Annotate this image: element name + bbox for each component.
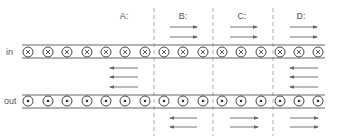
arrow-head bbox=[109, 75, 114, 79]
arrow-head bbox=[314, 125, 319, 129]
arrow-right-icon bbox=[290, 35, 318, 39]
arrow-head bbox=[193, 25, 198, 29]
field-arrows bbox=[109, 25, 319, 129]
arrow-head bbox=[109, 66, 114, 70]
dot-mark bbox=[27, 100, 30, 103]
dot-mark bbox=[66, 100, 69, 103]
dot-conductor-icon bbox=[217, 96, 227, 106]
cross-conductor-icon bbox=[43, 47, 53, 57]
cross-conductor-icon bbox=[275, 47, 285, 57]
cross-conductor-icon bbox=[120, 47, 130, 57]
arrow-right-icon bbox=[290, 116, 319, 120]
arrow-right-icon bbox=[230, 125, 259, 129]
arrow-left-icon bbox=[169, 116, 197, 120]
dot-mark bbox=[279, 100, 282, 103]
cross-conductor-icon bbox=[236, 47, 246, 57]
conductor-row-in bbox=[23, 47, 323, 57]
dot-conductor-icon bbox=[62, 96, 72, 106]
arrow-head bbox=[313, 35, 318, 39]
dot-mark bbox=[105, 100, 108, 103]
arrow-head bbox=[109, 85, 114, 89]
dot-mark bbox=[317, 100, 320, 103]
arrow-head bbox=[253, 25, 258, 29]
conductor-field-diagram: inoutA:B:C:D: bbox=[0, 0, 343, 138]
arrow-right-icon bbox=[170, 25, 198, 29]
dot-conductor-icon bbox=[82, 96, 92, 106]
dot-conductor-icon bbox=[120, 96, 130, 106]
cross-conductor-icon bbox=[62, 47, 72, 57]
arrow-head bbox=[314, 116, 319, 120]
dot-conductor-icon bbox=[256, 96, 266, 106]
dot-conductor-icon bbox=[178, 96, 188, 106]
cross-conductor-icon bbox=[140, 47, 150, 57]
arrow-left-icon bbox=[289, 75, 318, 79]
dot-conductor-icon bbox=[23, 96, 33, 106]
arrow-left-icon bbox=[169, 125, 197, 129]
row-label-out: out bbox=[4, 96, 17, 106]
arrow-head bbox=[289, 85, 294, 89]
cross-conductor-icon bbox=[82, 47, 92, 57]
dot-conductor-icon bbox=[198, 96, 208, 106]
arrow-head bbox=[313, 25, 318, 29]
dot-mark bbox=[86, 100, 89, 103]
arrow-left-icon bbox=[109, 85, 138, 89]
arrow-head bbox=[253, 35, 258, 39]
dot-mark bbox=[47, 100, 50, 103]
arrow-head bbox=[169, 116, 174, 120]
cross-conductor-icon bbox=[159, 47, 169, 57]
region-label-a: A: bbox=[120, 11, 129, 21]
arrow-left-icon bbox=[109, 66, 138, 70]
arrow-right-icon bbox=[170, 35, 198, 39]
arrow-right-icon bbox=[230, 35, 258, 39]
dot-mark bbox=[202, 100, 205, 103]
region-label-b: B: bbox=[179, 11, 188, 21]
arrow-head bbox=[169, 125, 174, 129]
arrow-head bbox=[254, 116, 259, 120]
dot-conductor-icon bbox=[43, 96, 53, 106]
cross-conductor-icon bbox=[198, 47, 208, 57]
region-label-d: D: bbox=[297, 11, 306, 21]
dot-mark bbox=[260, 100, 263, 103]
dot-conductor-icon bbox=[159, 96, 169, 106]
arrow-left-icon bbox=[109, 75, 138, 79]
cross-conductor-icon bbox=[217, 47, 227, 57]
dot-conductor-icon bbox=[275, 96, 285, 106]
dot-conductor-icon bbox=[140, 96, 150, 106]
dot-mark bbox=[221, 100, 224, 103]
row-label-in: in bbox=[6, 47, 13, 57]
cross-conductor-icon bbox=[178, 47, 188, 57]
arrow-head bbox=[289, 75, 294, 79]
dot-mark bbox=[298, 100, 301, 103]
dot-conductor-icon bbox=[313, 96, 323, 106]
region-label-c: C: bbox=[238, 11, 247, 21]
cross-conductor-icon bbox=[294, 47, 304, 57]
arrow-left-icon bbox=[289, 66, 318, 70]
cross-conductor-icon bbox=[101, 47, 111, 57]
arrow-right-icon bbox=[230, 116, 259, 120]
cross-conductor-icon bbox=[23, 47, 33, 57]
arrow-head bbox=[193, 35, 198, 39]
dot-mark bbox=[144, 100, 147, 103]
dot-conductor-icon bbox=[294, 96, 304, 106]
dot-mark bbox=[182, 100, 185, 103]
arrow-head bbox=[289, 66, 294, 70]
dot-conductor-icon bbox=[101, 96, 111, 106]
cross-conductor-icon bbox=[313, 47, 323, 57]
arrow-left-icon bbox=[289, 85, 318, 89]
arrow-head bbox=[254, 125, 259, 129]
dot-mark bbox=[240, 100, 243, 103]
arrow-right-icon bbox=[290, 125, 319, 129]
conductor-rows bbox=[23, 47, 323, 106]
dot-mark bbox=[163, 100, 166, 103]
arrow-right-icon bbox=[290, 25, 318, 29]
dot-mark bbox=[124, 100, 127, 103]
dot-conductor-icon bbox=[236, 96, 246, 106]
cross-conductor-icon bbox=[256, 47, 266, 57]
arrow-right-icon bbox=[230, 25, 258, 29]
conductor-row-out bbox=[23, 96, 323, 106]
